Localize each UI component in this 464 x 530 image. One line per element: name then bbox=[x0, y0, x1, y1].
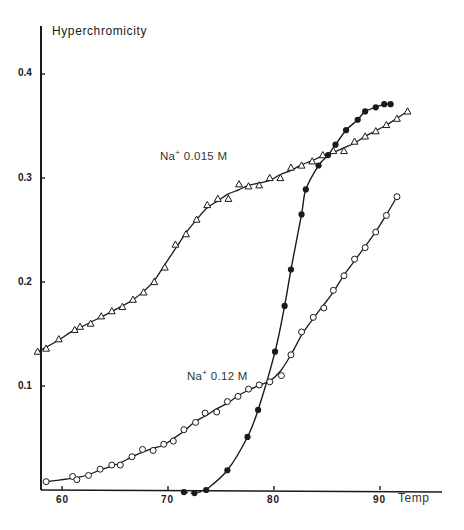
filled-circle-marker bbox=[362, 108, 368, 114]
y-tick-label-0.4: 0.4 bbox=[18, 67, 32, 78]
open-circle-marker bbox=[161, 441, 167, 447]
open-circle-marker bbox=[235, 393, 241, 399]
filled-circle-marker bbox=[381, 101, 387, 107]
triangle-marker bbox=[383, 121, 390, 127]
open-circle-marker bbox=[341, 273, 347, 279]
open-circle-marker bbox=[246, 386, 252, 392]
fitted-curves bbox=[38, 104, 408, 493]
triangle-marker bbox=[404, 108, 411, 114]
filled-circle-marker bbox=[373, 104, 379, 110]
triangle-marker bbox=[204, 201, 211, 207]
filled-circle-marker bbox=[191, 490, 197, 496]
x-axis-label: Temp bbox=[398, 491, 429, 505]
annotation-na-012m: Na+ 0.12 M bbox=[187, 368, 248, 382]
filled-circle-marker bbox=[325, 152, 331, 158]
open-circle-marker bbox=[214, 409, 220, 415]
triangle-marker bbox=[225, 195, 232, 201]
triangle-marker bbox=[298, 162, 305, 168]
open-circle-marker bbox=[170, 438, 176, 444]
x-tick-label-60: 60 bbox=[56, 494, 69, 505]
filled-circle-marker bbox=[355, 117, 361, 123]
x-tick-label-80: 80 bbox=[267, 494, 280, 505]
filled-circle-marker bbox=[288, 266, 294, 272]
open-circle-marker bbox=[181, 427, 187, 433]
filled-circle-marker bbox=[303, 186, 309, 192]
open-circle-marker bbox=[117, 462, 123, 468]
open-circle-marker bbox=[330, 287, 336, 293]
open-circle-marker bbox=[267, 379, 273, 385]
open-circle-marker bbox=[362, 245, 368, 251]
filled-circle-marker bbox=[388, 101, 394, 107]
open-circle-marker bbox=[150, 447, 156, 453]
triangle-marker bbox=[183, 231, 190, 237]
filled-circle-marker bbox=[244, 434, 250, 440]
open-circle-marker bbox=[109, 462, 115, 468]
filled-circle-marker bbox=[203, 487, 209, 493]
open-circle-marker bbox=[140, 446, 146, 452]
x-tick-label-90: 90 bbox=[373, 494, 386, 505]
x-tick-label-70: 70 bbox=[161, 494, 174, 505]
filled-circle-marker bbox=[343, 127, 349, 133]
x-axis-line bbox=[41, 490, 442, 492]
filled-circle-marker bbox=[181, 489, 187, 495]
open-circle-marker bbox=[299, 329, 305, 335]
anno2-rest: 0.12 M bbox=[207, 370, 247, 382]
open-circle-marker bbox=[86, 472, 92, 478]
chart-plot-area bbox=[0, 0, 464, 530]
triangle-marker bbox=[288, 164, 295, 170]
triangle-marker bbox=[214, 195, 221, 201]
open-circle-marker bbox=[256, 382, 262, 388]
open-circle-marker bbox=[383, 212, 389, 218]
triangle-marker bbox=[161, 264, 168, 270]
open-circle-marker bbox=[288, 352, 294, 358]
annotation-na-0015m: Na+ 0.015 M bbox=[160, 148, 227, 162]
filled-circle-marker bbox=[282, 303, 288, 309]
anno1-main: Na bbox=[160, 150, 175, 162]
open-circle-marker bbox=[43, 479, 49, 485]
filled-circle-marker bbox=[298, 211, 304, 217]
triangle-marker bbox=[266, 174, 273, 180]
open-circle-marker bbox=[321, 305, 327, 311]
filled-circle-marker bbox=[315, 162, 321, 168]
y-tick-label-0.3: 0.3 bbox=[18, 172, 32, 183]
open-circle-marker bbox=[193, 419, 199, 425]
anno2-main: Na bbox=[187, 370, 202, 382]
triangle-marker bbox=[236, 181, 243, 187]
triangle-marker bbox=[130, 296, 137, 302]
filled-circle-marker bbox=[255, 407, 261, 413]
series-curve-1 bbox=[46, 197, 397, 482]
series-curve-2 bbox=[206, 104, 390, 490]
triangle-marker bbox=[372, 128, 379, 134]
anno1-rest: 0.015 M bbox=[180, 150, 227, 162]
triangle-marker bbox=[394, 115, 401, 121]
open-circle-marker bbox=[202, 410, 208, 416]
y-tick-label-0.2: 0.2 bbox=[18, 276, 32, 287]
open-circle-marker bbox=[278, 373, 284, 379]
open-circle-marker bbox=[74, 477, 80, 483]
axes bbox=[41, 26, 442, 492]
triangle-marker bbox=[362, 133, 369, 139]
filled-circle-marker bbox=[224, 467, 230, 473]
filled-circle-marker bbox=[272, 349, 278, 355]
filled-circle-marker bbox=[332, 142, 338, 148]
open-circle-marker bbox=[394, 194, 400, 200]
open-circle-marker bbox=[97, 466, 103, 472]
triangle-marker bbox=[309, 158, 316, 164]
open-circle-marker bbox=[373, 229, 379, 235]
open-circle-marker bbox=[224, 399, 230, 405]
open-circle-marker bbox=[352, 256, 358, 262]
open-circle-marker bbox=[129, 454, 135, 460]
y-tick-label-0.1: 0.1 bbox=[18, 380, 32, 391]
triangle-marker bbox=[151, 278, 158, 284]
y-axis-label: Hyperchromicity bbox=[52, 24, 147, 38]
open-circle-marker bbox=[310, 314, 316, 320]
